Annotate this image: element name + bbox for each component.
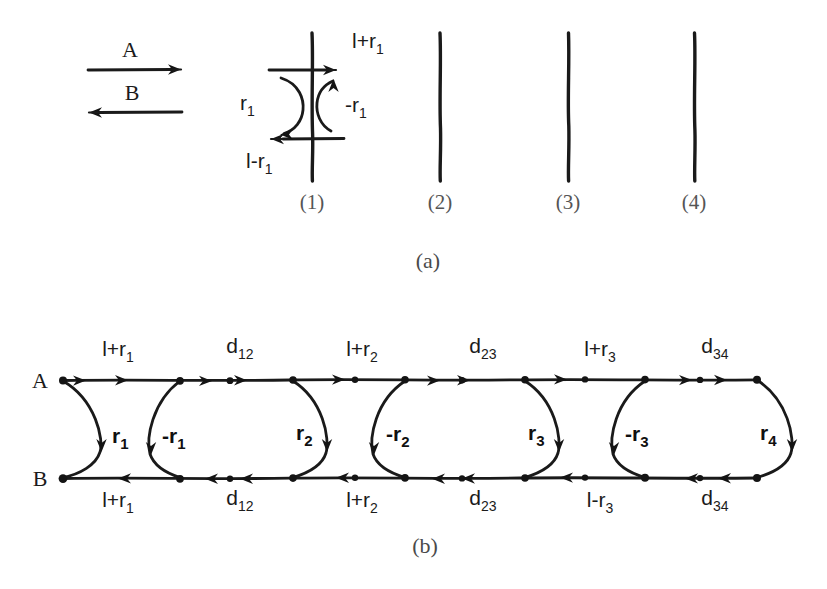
panel-b-arc-label-3-text: -r [386,422,401,445]
svg-text:d12: d12 [226,334,253,362]
label-r1-sub: 1 [247,103,255,119]
label-l-plus-r1-sub: 1 [376,41,384,57]
svg-text:l+r2: l+r2 [346,337,378,365]
interface-1-left-arc [280,78,303,140]
svg-text:r1: r1 [240,91,255,119]
panel-b-arc-label-0-sub: 1 [120,435,128,452]
panel-b-line-b [63,478,757,479]
panel-b-top-label-5-sub: 34 [713,346,729,362]
interface-number-4: (4) [682,190,707,214]
panel-b-bottom-label-2-text: l+r [346,488,370,511]
label-l-minus-r1-text: l-r [246,149,265,172]
panel-b-bottom-label-3-sub: 23 [481,498,497,514]
panel-b-bottom-label-2-sub: 2 [370,500,378,516]
svg-text:-r1: -r1 [162,424,186,452]
panel-b-top-label-3-sub: 23 [481,346,497,362]
svg-text:l+r2: l+r2 [346,488,378,516]
panel-b-bottom-label-5-text: d [701,486,713,509]
interface-1-label-bottom-left: l-r1 [246,149,273,177]
panel-b-arc-label-5-text: -r [625,422,640,445]
svg-text:d12: d12 [226,486,253,514]
panel-a-caption: (a) [416,248,440,273]
panel-b-arc-label-0-text: r [112,424,120,447]
svg-text:l+r1: l+r1 [102,337,134,365]
label-l-plus-r1-text: l+r [352,29,376,52]
interface-number-2: (2) [428,190,453,214]
panel-b-bottom-labels: l+r1 d12 l+r2 d23 l-r3 d34 [102,486,729,516]
panel-b-bottom-label-3-text: d [469,486,481,509]
panel-b-arc-labels: r1 -r1 r2 -r2 r3 -r3 r4 [112,421,777,452]
panel-b-top-label-0-sub: 1 [126,349,134,365]
interface-number-3: (3) [556,190,581,214]
panel-b-arc-label-6-text: r [760,421,768,444]
panel-b-arc-label-4-text: r [528,421,536,444]
svg-text:r1: r1 [112,424,129,452]
svg-text:-r2: -r2 [386,422,410,450]
panel-b-caption: (b) [412,533,438,558]
panel-b-top-label-3-text: d [469,334,481,357]
panel-b-bottom-label-1-text: d [226,486,238,509]
svg-text:l+r1: l+r1 [352,29,384,57]
panel-a: A B [88,29,706,273]
panel-b-row-label-b: B [33,466,48,491]
interface-line-2 [440,33,441,181]
svg-text:l+r1: l+r1 [102,488,134,516]
panel-b-arc-label-2-text: r [296,421,304,444]
svg-text:r2: r2 [296,421,313,449]
panel-b-bottom-label-0-sub: 1 [126,500,134,516]
panel-b-arc-label-5-sub: 3 [640,433,648,450]
panel-b-line-a [63,380,757,381]
panel-b-top-label-5-text: d [701,334,713,357]
svg-text:l+r3: l+r3 [584,337,616,365]
legend-arrow-a [88,64,181,74]
label-minus-r1-text: -r [345,93,359,116]
panel-b-top-label-2-sub: 2 [370,349,378,365]
interface-line-1 [312,33,313,181]
svg-text:d34: d34 [701,486,728,514]
label-r1-text: r [240,91,247,114]
legend-arrow-b [89,107,182,117]
panel-b-top-label-4-text: l+r [584,337,608,360]
interface-number-1: (1) [300,190,325,214]
panel-b-arc-label-4-sub: 3 [536,432,544,449]
panel-b-bottom-label-1-sub: 12 [238,498,254,514]
svg-text:l-r1: l-r1 [246,149,273,177]
panel-b-top-label-4-sub: 3 [608,349,616,365]
panel-b-bottom-label-4-text: l-r [587,488,606,511]
interface-1-label-top-right: l+r1 [352,29,384,57]
svg-text:d23: d23 [469,334,496,362]
svg-text:l-r3: l-r3 [587,488,614,516]
svg-text:d34: d34 [701,334,728,362]
label-minus-r1-sub: 1 [359,105,367,121]
panel-b-top-label-1-text: d [226,334,238,357]
panel-b-arc-label-1-text: -r [162,424,177,447]
interface-line-3 [568,33,569,181]
svg-text:r3: r3 [528,421,545,449]
legend-label-a: A [122,37,138,62]
panel-b-row-label-a: A [32,368,48,393]
panel-b-arc-label-6-sub: 4 [768,432,777,449]
panel-b-arc-label-1-sub: 1 [177,435,185,452]
label-l-minus-r1-sub: 1 [265,161,273,177]
panel-b-bottom-label-0-text: l+r [102,488,126,511]
panel-b-top-labels: l+r1 d12 l+r2 d23 l+r3 d34 [102,334,729,365]
svg-text:-r3: -r3 [625,422,649,450]
interface-1-label-left-arc: r1 [240,91,255,119]
interface-1-top-ray [269,65,336,75]
panel-b-bottom-label-5-sub: 34 [713,498,729,514]
panel-b-top-label-0-text: l+r [102,337,126,360]
interface-1-right-arc [317,79,339,131]
panel-b-arc-label-2-sub: 2 [304,432,312,449]
panel-b-top-label-1-sub: 12 [238,346,254,362]
panel-b-top-label-2-text: l+r [346,337,370,360]
panel-b-bottom-label-4-sub: 3 [605,500,613,516]
interface-1-label-right-arc: -r1 [345,93,367,121]
svg-text:-r1: -r1 [345,93,367,121]
figure-container: A B [0,0,827,589]
panel-b-arc-r1 [63,381,107,478]
interface-1-bottom-ray [271,134,344,144]
interface-line-4 [694,33,695,181]
panel-b-arc-label-3-sub: 2 [401,433,409,450]
panel-b: A B [32,334,797,558]
svg-text:d23: d23 [469,486,496,514]
